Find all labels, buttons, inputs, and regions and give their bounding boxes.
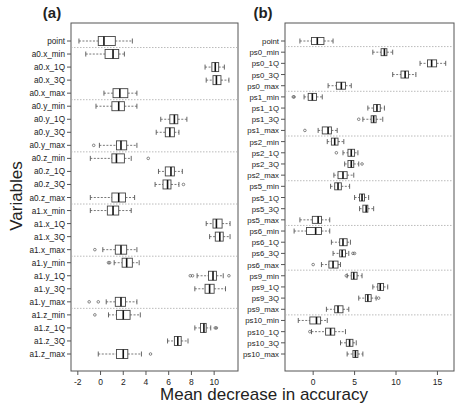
box-ps6_min: ps6_min <box>250 227 330 236</box>
box-ps9_max: ps9_max <box>247 305 348 314</box>
box-ps2_max: ps2_max <box>247 171 353 180</box>
y-tick-label: ps5_3Q <box>252 205 279 214</box>
box-ps5_min: ps5_min <box>250 182 350 191</box>
box-ps0_3Q: ps0_3Q <box>252 71 416 80</box>
chart-canvas: -20246810pointa0.x_mina0.x_1Qa0.x_3Qa0.x… <box>0 0 470 414</box>
y-tick-label: a1.x_max <box>30 246 66 255</box>
box-ps0_max: ps0_max <box>247 82 351 91</box>
box-ps1_3Q: ps1_3Q <box>252 115 383 124</box>
iqr-box <box>335 306 343 313</box>
box-a0.z_3Q: a0.z_3Q <box>34 180 185 190</box>
iqr-box <box>98 37 115 46</box>
y-tick-label: a0.y_max <box>30 141 66 150</box>
iqr-box <box>112 154 124 163</box>
box-a1.x_3Q: a1.x_3Q <box>34 232 230 242</box>
box-a0.y_3Q: a0.y_3Q <box>34 128 179 138</box>
y-tick-label: point <box>47 37 65 46</box>
y-tick-label: ps0_min <box>250 48 279 57</box>
y-tick-label: ps9_max <box>247 305 279 314</box>
box-a0.x_max: a0.x_max <box>30 89 137 99</box>
y-tick-label: ps1_min <box>250 93 279 102</box>
box-a1.x_min: a1.x_min <box>32 206 131 216</box>
y-tick-label: ps10_1Q <box>247 328 279 337</box>
y-tick-label: a1.z_3Q <box>34 337 65 346</box>
y-tick-label: a0.x_1Q <box>34 63 65 72</box>
y-tick-label: a0.z_max <box>30 194 66 203</box>
x-tick-label: 10 <box>391 377 401 387</box>
y-tick-label: a0.z_1Q <box>34 167 65 176</box>
box-a1.z_max: a1.z_max <box>30 350 152 360</box>
y-tick-label: ps9_min <box>250 272 279 281</box>
y-tick-label: ps2_max <box>247 171 279 180</box>
outlier-point <box>335 151 338 154</box>
box-ps0_min: ps0_min <box>250 48 393 57</box>
y-tick-label: ps6_max <box>247 261 279 270</box>
y-tick-label: ps5_min <box>250 182 279 191</box>
panel-a-title: (a) <box>43 4 61 21</box>
box-ps1_max: ps1_max <box>247 126 337 135</box>
box-a0.y_max: a0.y_max <box>30 141 137 151</box>
y-tick-label: ps1_1Q <box>252 104 279 113</box>
box-ps0_1Q: ps0_1Q <box>252 59 446 68</box>
x-tick-label: 4 <box>144 377 149 387</box>
y-axis-label: Variables <box>7 161 26 231</box>
box-a0.x_1Q: a0.x_1Q <box>34 63 224 73</box>
y-tick-label: a1.x_3Q <box>34 233 65 242</box>
y-tick-label: ps0_max <box>247 82 279 91</box>
outlier-point <box>147 157 150 160</box>
box-a1.z_1Q: a1.z_1Q <box>34 323 218 333</box>
y-tick-label: ps1_3Q <box>252 115 279 124</box>
y-tick-label: ps9_1Q <box>252 283 279 292</box>
box-ps2_1Q: ps2_1Q <box>252 149 358 158</box>
box-ps2_min: ps2_min <box>250 138 344 147</box>
box-a1.z_min: a1.z_min <box>32 310 141 320</box>
y-tick-label: a1.z_max <box>30 350 66 359</box>
box-a1.z_3Q: a1.z_3Q <box>34 336 188 346</box>
outlier-point <box>304 129 307 132</box>
outlier-point <box>92 144 95 147</box>
y-tick-label: ps0_3Q <box>252 71 279 80</box>
x-tick-label: -2 <box>74 377 82 387</box>
iqr-box <box>116 350 127 359</box>
y-tick-label: ps10_min <box>245 316 279 325</box>
panel-b: 051015pointps0_minps0_1Qps0_3Qps0_maxps1… <box>243 23 454 387</box>
box-ps10_min: ps10_min <box>245 316 327 325</box>
box-a0.z_max: a0.z_max <box>30 193 135 203</box>
box-a1.y_min: a1.y_min <box>32 258 139 268</box>
box-ps5_max: ps5_max <box>247 216 329 225</box>
outlier-point <box>149 353 152 356</box>
y-tick-label: a1.x_1Q <box>34 220 65 229</box>
box-ps10_3Q: ps10_3Q <box>247 339 356 348</box>
y-tick-label: ps0_1Q <box>252 59 279 68</box>
box-ps5_1Q: ps5_1Q <box>252 194 369 203</box>
outlier-point <box>377 297 380 300</box>
iqr-box <box>310 317 321 324</box>
y-tick-label: a0.y_1Q <box>34 115 65 124</box>
box-ps10_1Q: ps10_1Q <box>247 328 345 337</box>
y-tick-label: ps10_3Q <box>247 339 279 348</box>
x-tick-label: 15 <box>433 377 443 387</box>
y-tick-label: a1.y_min <box>32 259 66 268</box>
y-tick-label: a0.y_min <box>32 102 66 111</box>
y-tick-label: a0.x_max <box>30 89 66 98</box>
box-point: point <box>262 37 333 46</box>
y-tick-label: a0.z_min <box>32 154 66 163</box>
y-tick-label: ps9_3Q <box>252 294 279 303</box>
y-tick-label: a1.z_min <box>32 311 66 320</box>
outlier-point <box>357 118 360 121</box>
box-ps1_1Q: ps1_1Q <box>252 104 385 113</box>
outlier-point <box>97 301 100 304</box>
box-a0.y_min: a0.y_min <box>32 102 137 112</box>
box-ps9_min: ps9_min <box>250 272 363 281</box>
outlier-point <box>312 263 315 266</box>
y-tick-label: a0.x_3Q <box>34 76 65 85</box>
y-tick-label: a0.z_3Q <box>34 180 65 189</box>
box-a0.x_3Q: a0.x_3Q <box>34 76 229 86</box>
y-tick-label: point <box>262 37 280 46</box>
outlier-point <box>361 163 364 166</box>
outlier-point <box>88 301 91 304</box>
x-tick-label: 2 <box>121 377 126 387</box>
y-tick-label: a1.y_max <box>30 298 66 307</box>
outlier-point <box>309 330 312 333</box>
x-tick-label: 0 <box>98 377 103 387</box>
